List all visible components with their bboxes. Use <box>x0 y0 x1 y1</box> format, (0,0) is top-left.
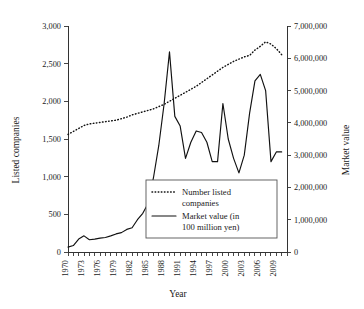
x-axis-tick: 1994 <box>189 259 198 276</box>
x-axis-tick: 1973 <box>77 260 86 277</box>
y-axis-right-tick: 5,000,000 <box>294 87 327 96</box>
legend-label-listed-line1: Number listed <box>182 187 232 197</box>
x-axis-tick: 2003 <box>237 260 246 277</box>
x-axis-tick: 1970 <box>61 260 70 277</box>
y-axis-left-tick-labels: 05001,0001,5002,0002,5003,000 <box>42 22 61 257</box>
x-axis-tick: 2006 <box>253 260 262 277</box>
x-axis-tick: 1985 <box>141 260 150 277</box>
legend-label-market-line2: 100 million yen) <box>182 222 239 232</box>
x-axis-title: Year <box>169 289 187 299</box>
x-axis-tick: 2000 <box>221 260 230 277</box>
legend-label-market-line1: Market value (in <box>182 211 240 221</box>
x-axis-tick: 1991 <box>173 260 182 277</box>
y-axis-left-tick: 1,500 <box>42 135 61 144</box>
chart-canvas: 05001,0001,5002,0002,5003,000 01,000,000… <box>0 0 364 309</box>
x-axis-tick: 2009 <box>269 260 278 277</box>
chart-legend: Number listed companies Market value (in… <box>146 180 277 238</box>
chart-figure: 05001,0001,5002,0002,5003,000 01,000,000… <box>0 0 364 309</box>
series-number-listed-companies <box>68 42 282 135</box>
x-axis-tick-labels: 1970197319761979198219851988199119941997… <box>61 259 278 276</box>
y-axis-left-tick: 2,500 <box>42 60 61 69</box>
x-axis-tick: 1988 <box>157 260 166 277</box>
y-axis-right-tick: 4,000,000 <box>294 119 327 128</box>
x-axis-tick: 1976 <box>93 260 102 277</box>
y-axis-left-tick: 1,000 <box>42 173 61 182</box>
y-axis-right-tick: 6,000,000 <box>294 54 327 63</box>
y-axis-right-tick: 7,000,000 <box>294 22 327 31</box>
y-axis-right-tick: 3,000,000 <box>294 151 327 160</box>
y-axis-right-tick: 0 <box>294 248 298 257</box>
y-axis-right-tick: 1,000,000 <box>294 216 327 225</box>
y-axis-left-tick: 3,000 <box>42 22 61 31</box>
y-axis-left-tick: 2,000 <box>42 97 61 106</box>
y-axis-right-tick: 2,000,000 <box>294 183 327 192</box>
x-axis-tick: 1982 <box>125 260 134 277</box>
y-axis-left-tick: 0 <box>57 248 61 257</box>
y-axis-right-title: Market value <box>341 125 351 175</box>
x-axis-tick: 1997 <box>205 260 214 277</box>
y-axis-right-tick-labels: 01,000,0002,000,0003,000,0004,000,0005,0… <box>294 22 327 257</box>
legend-label-listed-line2: companies <box>182 198 219 208</box>
x-axis-tick: 1979 <box>109 260 118 277</box>
y-axis-left-tick: 500 <box>49 210 61 219</box>
y-axis-left-title: Listed companies <box>11 116 21 183</box>
